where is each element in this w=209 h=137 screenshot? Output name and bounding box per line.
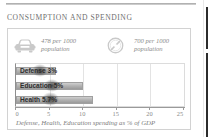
x-tick-label: 20: [146, 110, 152, 117]
car-icon: [14, 37, 36, 54]
page-edge-shadow-top: [206, 7, 208, 49]
page-edge-line: [203, 0, 204, 137]
stat-telephones-line2: population: [134, 45, 169, 53]
stats-row: 478 per 1000 population 700 per 1000 pop…: [8, 33, 190, 59]
bar-label-education: Education 5%: [20, 81, 63, 90]
bar-chart-plot-area: Defense 3% Education 5% Health 5.7%: [15, 63, 185, 107]
bar-label-defense: Defense 3%: [20, 66, 57, 75]
x-axis-line: [15, 107, 185, 108]
consumption-spending-panel: 478 per 1000 population 700 per 1000 pop…: [7, 28, 191, 130]
stat-cars-text: 478 per 1000 population: [41, 37, 76, 52]
top-divider-rule: [6, 3, 196, 5]
bar-row: Defense 3%: [16, 64, 184, 79]
chart-caption: Defense, Health, Education spending as %…: [16, 119, 155, 126]
bar-row: Health 5.7%: [16, 93, 184, 108]
stat-telephones-text: 700 per 1000 population: [134, 37, 169, 52]
telephone-icon: [107, 37, 129, 54]
x-tick-label: 0: [15, 110, 18, 117]
bar-series-spending: Defense 3% Education 5% Health 5.7%: [16, 64, 184, 106]
stat-cars-line1: 478 per 1000: [41, 37, 76, 44]
x-axis: 0 5 10 15 20 25: [15, 107, 185, 117]
page-canvas: CONSUMPTION AND SPENDING: [0, 0, 209, 137]
page-edge-shadow-bottom: [206, 53, 208, 137]
x-tick-label: 10: [79, 110, 85, 117]
stat-telephones-line1: 700 per 1000: [134, 37, 169, 44]
x-tick-label: 5: [47, 110, 50, 117]
section-heading: CONSUMPTION AND SPENDING: [7, 13, 132, 22]
bar-row: Education 5%: [16, 79, 184, 94]
x-tick-label: 25: [177, 110, 183, 117]
bar-label-health: Health 5.7%: [20, 95, 57, 104]
stat-cars-line2: population: [41, 45, 76, 53]
x-tick-label: 15: [113, 110, 119, 117]
